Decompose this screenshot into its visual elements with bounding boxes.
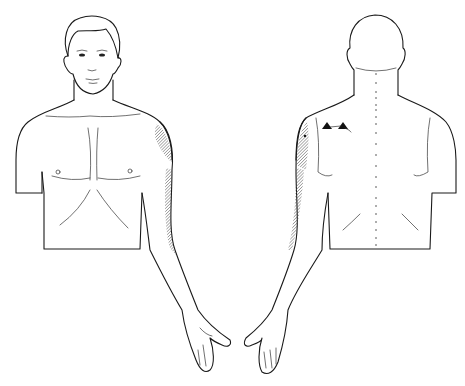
spine-markers [375, 73, 377, 246]
body-diagram [0, 0, 465, 386]
pain-area-back-shoulder [296, 122, 309, 170]
front-view [16, 16, 231, 371]
back-view [244, 15, 456, 374]
trigger-point-1 [322, 122, 332, 129]
front-head-outline [64, 16, 121, 94]
pain-area-front-shoulder [155, 124, 172, 162]
eye-right [99, 53, 105, 56]
trigger-point-2 [338, 122, 348, 129]
back-arm-outline [244, 118, 328, 374]
front-arm-outline [142, 122, 231, 372]
front-torso-outline [16, 100, 172, 193]
pain-area-front-arm [165, 168, 176, 255]
eye-left [79, 53, 85, 56]
pain-point [304, 135, 306, 137]
back-torso-outline [296, 95, 456, 249]
front-hairline [68, 29, 118, 58]
